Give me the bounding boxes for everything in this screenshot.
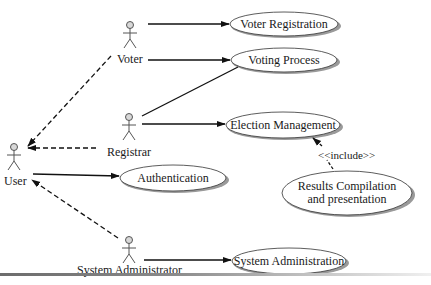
use-case-label-election-management: Election Management bbox=[226, 119, 340, 132]
assoc-registrar-voting-process bbox=[142, 67, 238, 116]
include-stereotype-label: <<include>> bbox=[318, 149, 375, 161]
use-case-label-results-line2: and presentation bbox=[282, 193, 412, 206]
use-case-label-voter-registration: Voter Registration bbox=[230, 18, 338, 31]
use-case-diagram bbox=[0, 0, 431, 285]
generalization-voter-user bbox=[28, 56, 111, 146]
bottom-divider bbox=[0, 273, 431, 276]
actor-label-user: User bbox=[4, 175, 27, 188]
include-arrow bbox=[313, 138, 322, 146]
use-case-label-voting-process: Voting Process bbox=[231, 54, 337, 67]
actor-user-figure[interactable] bbox=[7, 144, 21, 171]
actor-voter-figure[interactable] bbox=[123, 22, 137, 49]
actor-label-registrar: Registrar bbox=[107, 146, 151, 159]
assoc-user-authentication bbox=[33, 174, 119, 176]
actor-sysadmin-figure[interactable] bbox=[122, 237, 136, 264]
use-case-label-system-administration: System Administration bbox=[232, 255, 346, 268]
include-results-election bbox=[327, 160, 333, 169]
generalization-sysadmin-user bbox=[32, 180, 118, 238]
actor-label-voter: Voter bbox=[117, 53, 143, 66]
use-case-label-authentication: Authentication bbox=[120, 172, 226, 185]
actor-registrar-figure[interactable] bbox=[122, 114, 136, 141]
